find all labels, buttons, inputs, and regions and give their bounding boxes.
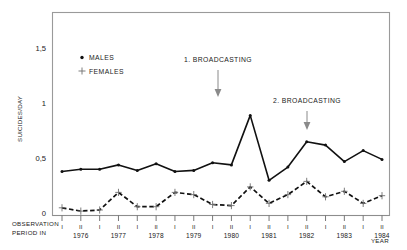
data-point-males — [381, 158, 384, 161]
data-point-females — [78, 208, 84, 215]
y-axis-tick-labels: 1,5 1 0,5 0 — [35, 44, 46, 218]
x-axis-period-labels: IIIIIIIIIIIIIIIIIIIIIIIIIII — [61, 223, 384, 230]
data-point-females — [191, 191, 197, 198]
data-point-males — [117, 163, 120, 166]
data-point-males — [230, 163, 233, 166]
x-axis-year-labels: 197619771978197919801981198219831984 — [73, 232, 390, 239]
data-point-males — [98, 168, 101, 171]
x-axis-tick-marks — [62, 216, 382, 222]
annotation-label-1: 1. BROADCASTING — [184, 56, 252, 63]
x-period-label: II — [230, 223, 234, 230]
data-point-females — [322, 193, 328, 200]
series-line-females — [62, 181, 382, 211]
series-markers-females — [59, 178, 385, 215]
x-period-label: II — [380, 223, 384, 230]
data-point-males — [286, 166, 289, 169]
series-markers-males — [61, 114, 384, 182]
annotation-second-broadcasting: 2. BROADCASTING — [273, 97, 341, 130]
data-point-males — [211, 161, 214, 164]
x-period-label: II — [343, 223, 347, 230]
legend-marker-females-icon — [79, 68, 86, 75]
chart-page: SUICIDES/DAY 1,5 1 0,5 0 IIIIIIIIIIIIIII… — [0, 0, 407, 250]
annotation-arrow-head-2 — [304, 122, 311, 130]
x-period-label: I — [249, 223, 251, 230]
x-year-label: 1977 — [111, 232, 127, 239]
data-point-males — [61, 170, 64, 173]
x-year-label: 1979 — [186, 232, 202, 239]
x-period-label: I — [212, 223, 214, 230]
suicides-per-day-line-chart: SUICIDES/DAY 1,5 1 0,5 0 IIIIIIIIIIIIIII… — [0, 0, 407, 250]
x-period-label: II — [192, 223, 196, 230]
x-year-label: 1976 — [73, 232, 89, 239]
x-period-label: I — [99, 223, 101, 230]
x-period-label: I — [287, 223, 289, 230]
legend-marker-males-icon — [80, 56, 83, 59]
data-point-females — [59, 204, 65, 211]
x-period-label: II — [79, 223, 83, 230]
observation-caption-line2: PERIOD IN — [12, 229, 46, 236]
x-period-label: I — [61, 223, 63, 230]
x-period-label: I — [136, 223, 138, 230]
y-tick-label-1: 1 — [42, 99, 46, 108]
data-point-males — [155, 162, 158, 165]
data-point-males — [343, 160, 346, 163]
x-period-label: I — [362, 223, 364, 230]
x-year-label: 1981 — [261, 232, 277, 239]
data-point-females — [360, 200, 366, 207]
data-point-females — [134, 203, 140, 210]
y-tick-label-0_5: 0,5 — [35, 154, 46, 163]
data-point-females — [341, 188, 347, 195]
data-point-females — [247, 183, 253, 190]
annotation-arrow-head-1 — [215, 89, 222, 97]
x-period-label: I — [325, 223, 327, 230]
data-point-males — [79, 168, 82, 171]
y-tick-label-1_5: 1,5 — [35, 44, 46, 53]
data-point-females — [379, 192, 385, 199]
data-point-males — [268, 179, 271, 182]
annotation-label-2: 2. BROADCASTING — [273, 97, 341, 104]
x-period-label: II — [154, 223, 158, 230]
x-period-label: I — [174, 223, 176, 230]
data-point-males — [324, 144, 327, 147]
x-year-label: 1982 — [299, 232, 315, 239]
data-point-males — [362, 149, 365, 152]
series-line-males — [62, 115, 382, 180]
plot-frame — [53, 13, 390, 216]
data-point-females — [96, 206, 102, 213]
data-point-females — [172, 189, 178, 196]
data-point-females — [209, 201, 215, 208]
x-period-label: II — [267, 223, 271, 230]
chart-legend: MALES FEMALES — [79, 54, 124, 75]
x-period-label: II — [305, 223, 309, 230]
legend-label-females: FEMALES — [89, 68, 124, 75]
x-year-label: 1983 — [337, 232, 353, 239]
observation-caption-line1: OBSERVATION — [12, 220, 59, 227]
data-point-males — [192, 169, 195, 172]
x-axis-title: YEAR — [371, 237, 389, 244]
legend-label-males: MALES — [89, 54, 114, 61]
x-year-label: 1978 — [148, 232, 164, 239]
x-year-label: 1980 — [224, 232, 240, 239]
y-axis-title: SUICIDES/DAY — [16, 96, 23, 142]
data-point-males — [136, 169, 139, 172]
data-point-males — [249, 114, 252, 117]
y-tick-label-0: 0 — [42, 209, 46, 218]
data-point-males — [305, 140, 308, 143]
annotation-first-broadcasting: 1. BROADCASTING — [184, 56, 252, 97]
data-point-males — [173, 170, 176, 173]
x-period-label: II — [117, 223, 121, 230]
